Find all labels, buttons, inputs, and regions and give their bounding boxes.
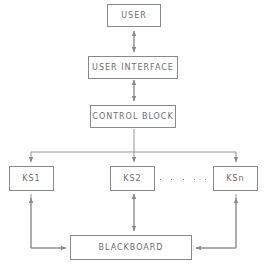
node-ks1-label: KS1	[22, 175, 40, 183]
node-ks1[interactable]: KS1	[9, 166, 54, 191]
diagram-connectors	[0, 0, 271, 270]
node-blackboard-label: BLACKBOARD	[99, 244, 164, 252]
node-ks2-label: KS2	[123, 175, 141, 183]
ellipsis-dot	[194, 179, 195, 180]
node-ksn[interactable]: KSn	[213, 166, 258, 191]
node-user-interface[interactable]: USER INTERFACE	[88, 56, 178, 79]
node-user-label: USER	[121, 12, 147, 20]
ellipsis-dot	[171, 179, 172, 180]
node-user-interface-label: USER INTERFACE	[92, 64, 174, 72]
ellipsis-dot	[183, 179, 184, 180]
edge-blackboard-to-ks1	[31, 194, 66, 248]
ellipsis-dot	[205, 179, 206, 180]
node-control-block-label: CONTROL BLOCK	[92, 113, 173, 121]
edge-blackboard-to-ksn	[196, 198, 236, 248]
ellipsis-dot	[160, 179, 161, 180]
edge-ksn-to-blackboard	[196, 194, 236, 248]
diagram-canvas: USER USER INTERFACE CONTROL BLOCK KS1 KS…	[0, 0, 271, 270]
node-ksn-label: KSn	[226, 175, 244, 183]
node-blackboard[interactable]: BLACKBOARD	[70, 235, 192, 260]
ks-ellipsis	[160, 178, 206, 181]
node-ks2[interactable]: KS2	[110, 166, 155, 191]
edge-ks1-to-blackboard	[31, 198, 66, 248]
node-user[interactable]: USER	[107, 4, 161, 27]
node-control-block[interactable]: CONTROL BLOCK	[90, 105, 176, 128]
